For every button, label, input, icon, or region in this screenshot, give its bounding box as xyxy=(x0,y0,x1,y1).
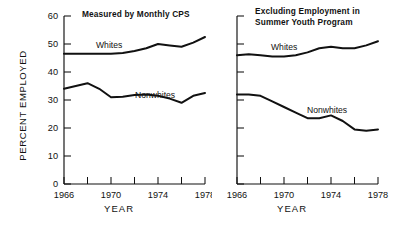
y-ticks-right xyxy=(237,16,244,184)
chart-panel-right: Excluding Employment in Summer Youth Pro… xyxy=(207,0,419,243)
y-tick-label: 40 xyxy=(48,67,58,77)
series-label-left-nonwhites: Nonwhites xyxy=(135,90,175,100)
series-label-right-nonwhites: Nonwhites xyxy=(307,105,347,115)
x-ticks-right xyxy=(237,177,378,184)
x-tick-labels-right: 1966197019741978 xyxy=(227,190,388,200)
chart-title-right: Excluding Employment in Summer Youth Pro… xyxy=(255,6,360,27)
y-tick-label: 30 xyxy=(48,95,58,105)
chart-panel-left: Measured by Monthly CPS YEAR 01020304050… xyxy=(0,0,212,243)
series-label-left-whites: Whites xyxy=(96,40,122,50)
x-tick-label: 1974 xyxy=(148,190,168,200)
y-tick-label: 10 xyxy=(48,151,58,161)
x-tick-labels-left: 1966197019741978 xyxy=(54,190,212,200)
y-tick-labels-left: 0102030405060 xyxy=(48,11,58,189)
x-axis-label-left: YEAR xyxy=(104,203,134,214)
chart-title-right-line2: Summer Youth Program xyxy=(255,17,353,27)
x-tick-label: 1974 xyxy=(321,190,341,200)
y-tick-label: 60 xyxy=(48,11,58,21)
x-tick-label: 1966 xyxy=(227,190,247,200)
y-tick-label: 0 xyxy=(53,179,58,189)
x-ticks-left xyxy=(64,177,205,184)
y-tick-label: 20 xyxy=(48,123,58,133)
x-tick-label: 1978 xyxy=(368,190,388,200)
series-label-right-whites: Whites xyxy=(271,42,297,52)
chart-title-left: Measured by Monthly CPS xyxy=(82,9,190,20)
x-tick-label: 1966 xyxy=(54,190,74,200)
y-ticks-left xyxy=(64,16,71,184)
x-tick-label: 1970 xyxy=(274,190,294,200)
x-axis-label-right: YEAR xyxy=(277,203,307,214)
chart-title-right-line1: Excluding Employment in xyxy=(255,6,360,16)
series-line-right-whites xyxy=(237,41,378,56)
y-tick-label: 50 xyxy=(48,39,58,49)
plot-right: 1966197019741978 Whites Nonwhites xyxy=(207,0,419,243)
chart-figure: PERCENT EMPLOYED Measured by Monthly CPS… xyxy=(0,0,419,243)
x-tick-label: 1970 xyxy=(101,190,121,200)
series-line-left-whites xyxy=(64,37,205,54)
